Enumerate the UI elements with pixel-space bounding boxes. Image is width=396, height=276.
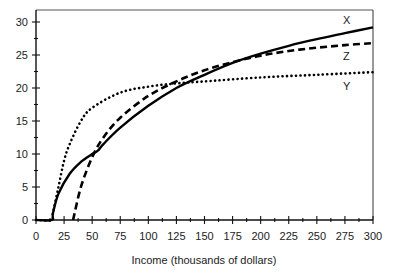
plot-frame bbox=[36, 10, 373, 220]
x-axis: 0255075100125150175200225250275300 bbox=[33, 216, 382, 242]
x-tick-label: 0 bbox=[33, 230, 39, 242]
y-tick-label: 5 bbox=[22, 181, 28, 193]
x-tick-label: 300 bbox=[364, 230, 382, 242]
y-tick-label: 25 bbox=[16, 49, 28, 61]
y-tick-label: 0 bbox=[22, 214, 28, 226]
y-axis: 051015202530 bbox=[16, 10, 40, 226]
x-tick-label: 75 bbox=[114, 230, 126, 242]
x-axis-title: Income (thousands of dollars) bbox=[132, 254, 277, 266]
x-tick-label: 25 bbox=[58, 230, 70, 242]
series-label-x: X bbox=[343, 14, 351, 26]
series-line-z bbox=[73, 43, 373, 220]
x-tick-label: 200 bbox=[251, 230, 269, 242]
x-tick-label: 250 bbox=[308, 230, 326, 242]
series-label-z: Z bbox=[343, 50, 350, 62]
series-label-y: Y bbox=[343, 80, 351, 92]
series-line-y bbox=[36, 72, 373, 220]
x-tick-label: 225 bbox=[280, 230, 298, 242]
series-lines bbox=[36, 27, 373, 220]
y-tick-label: 30 bbox=[16, 16, 28, 28]
income-line-chart: 051015202530 025507510012515017520022525… bbox=[0, 0, 396, 276]
x-tick-label: 100 bbox=[139, 230, 157, 242]
x-tick-label: 275 bbox=[336, 230, 354, 242]
y-tick-label: 15 bbox=[16, 115, 28, 127]
x-tick-label: 150 bbox=[195, 230, 213, 242]
y-tick-label: 10 bbox=[16, 148, 28, 160]
y-tick-label: 20 bbox=[16, 82, 28, 94]
x-tick-label: 125 bbox=[167, 230, 185, 242]
x-tick-label: 175 bbox=[223, 230, 241, 242]
x-tick-label: 50 bbox=[86, 230, 98, 242]
series-line-x bbox=[36, 27, 373, 220]
